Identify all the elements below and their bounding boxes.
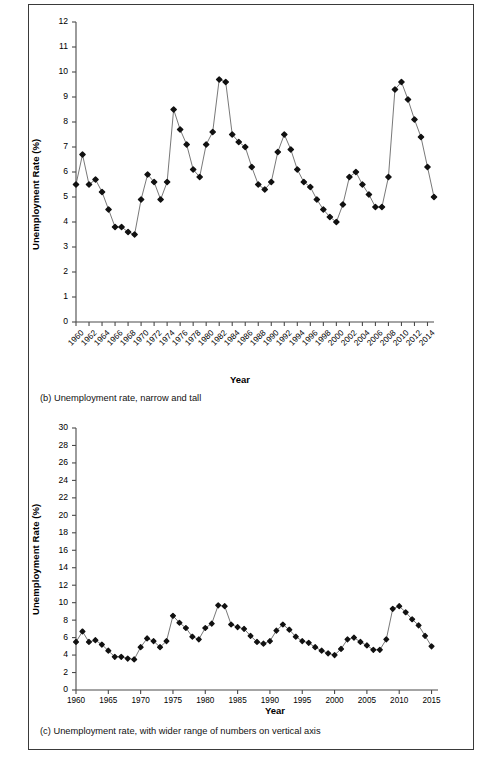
x-tick-label: 1965 — [93, 697, 123, 705]
y-tick-label: 28 — [42, 441, 68, 450]
y-tick-label: 2 — [42, 668, 68, 677]
figure-c: Unemployment Rate (%) Year (c) Unemploym… — [0, 415, 500, 750]
y-tick-label: 12 — [42, 17, 68, 26]
y-tick-label: 10 — [42, 67, 68, 76]
y-tick-label: 2 — [42, 267, 68, 276]
y-tick-label: 8 — [42, 117, 68, 126]
figure-page: Unemployment Rate (%) Year (b) Unemploym… — [0, 0, 500, 764]
x-tick-label: 1995 — [287, 697, 317, 705]
y-tick-label: 10 — [42, 598, 68, 607]
x-tick-label: 1970 — [126, 697, 156, 705]
y-tick-label: 8 — [42, 616, 68, 625]
y-tick-label: 30 — [42, 423, 68, 432]
y-tick-label: 16 — [42, 546, 68, 555]
x-tick-label: 2005 — [352, 697, 382, 705]
y-tick-label: 22 — [42, 493, 68, 502]
y-tick-label: 4 — [42, 650, 68, 659]
y-tick-label: 0 — [42, 685, 68, 694]
y-tick-label: 6 — [42, 633, 68, 642]
figure-caption-c: (c) Unemployment rate, with wider range … — [40, 726, 321, 736]
y-tick-label: 20 — [42, 511, 68, 520]
x-tick-label: 2000 — [320, 697, 350, 705]
y-tick-label: 7 — [42, 142, 68, 151]
y-tick-label: 3 — [42, 242, 68, 251]
x-tick-label: 1985 — [223, 697, 253, 705]
y-tick-label: 18 — [42, 528, 68, 537]
figure-b: Unemployment Rate (%) Year (b) Unemploym… — [0, 0, 500, 410]
y-tick-label: 9 — [42, 92, 68, 101]
figure-caption-b: (b) Unemployment rate, narrow and tall — [40, 393, 201, 403]
x-tick-label: 1960 — [61, 697, 91, 705]
x-tick-label: 1980 — [190, 697, 220, 705]
x-tick-label: 2010 — [384, 697, 414, 705]
y-tick-label: 1 — [42, 292, 68, 301]
y-tick-label: 0 — [42, 317, 68, 326]
y-tick-label: 11 — [42, 42, 68, 51]
y-tick-label: 12 — [42, 581, 68, 590]
x-tick-label: 1990 — [255, 697, 285, 705]
y-tick-label: 24 — [42, 476, 68, 485]
x-tick-label: 1975 — [158, 697, 188, 705]
y-tick-label: 4 — [42, 217, 68, 226]
y-tick-label: 26 — [42, 458, 68, 467]
x-tick-label: 2015 — [417, 697, 447, 705]
y-tick-label: 5 — [42, 192, 68, 201]
y-tick-label: 14 — [42, 563, 68, 572]
y-tick-label: 6 — [42, 167, 68, 176]
